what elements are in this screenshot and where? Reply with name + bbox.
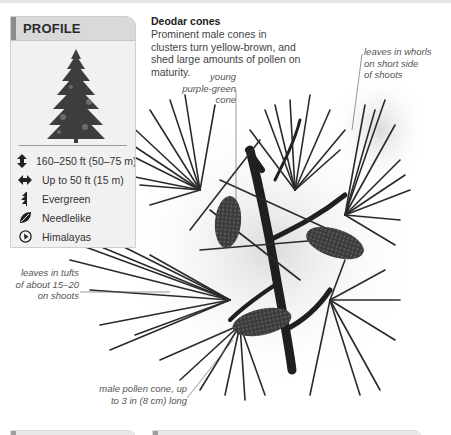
evergreen-icon bbox=[17, 192, 33, 206]
fact-evergreen: Evergreen bbox=[17, 189, 131, 208]
profile-box: PROFILE 160–250 ft (50–75 m) bbox=[10, 16, 136, 248]
tree-silhouette-icon bbox=[41, 47, 111, 145]
annotation-line: leaves in whorls bbox=[364, 46, 444, 58]
fact-height-text: 160–250 ft (50–75 m) bbox=[36, 155, 136, 167]
annotation-pollen-cone: male pollen cone, up to 3 in (8 cm) long bbox=[95, 383, 187, 406]
fact-location: Himalayas bbox=[17, 227, 131, 246]
location-icon bbox=[17, 230, 33, 244]
fact-leaf-text: Needlelike bbox=[42, 212, 91, 224]
annotation-line: on short side bbox=[364, 58, 444, 70]
annotation-line: male pollen cone, up bbox=[95, 383, 187, 395]
profile-divider bbox=[19, 145, 127, 146]
bottom-right-panel bbox=[152, 430, 422, 435]
profile-header: PROFILE bbox=[11, 17, 135, 41]
annotation-line: on shoots bbox=[0, 290, 79, 302]
panel-accent-bar bbox=[11, 431, 16, 435]
annotation-line: purple-green cone bbox=[170, 83, 236, 106]
spread-icon bbox=[17, 173, 33, 187]
annotation-leaf-tufts: leaves in tufts of about 15–20 on shoots bbox=[0, 267, 79, 302]
annotation-line: of shoots bbox=[364, 69, 444, 81]
caption-title: Deodar cones bbox=[151, 15, 301, 28]
annotation-line: of about 15–20 bbox=[0, 279, 79, 291]
annotation-line: to 3 in (8 cm) long bbox=[95, 395, 187, 407]
leaf-icon bbox=[17, 211, 33, 225]
profile-title: PROFILE bbox=[23, 21, 81, 36]
annotation-leaf-whorls: leaves in whorls on short side of shoots bbox=[364, 46, 444, 81]
fact-spread: Up to 50 ft (15 m) bbox=[17, 170, 131, 189]
caption: Deodar cones Prominent male cones in clu… bbox=[151, 15, 301, 78]
annotation-line: leaves in tufts bbox=[0, 267, 79, 279]
fact-spread-text: Up to 50 ft (15 m) bbox=[42, 174, 124, 186]
fact-location-text: Himalayas bbox=[42, 231, 91, 243]
fact-height: 160–250 ft (50–75 m) bbox=[17, 151, 131, 170]
bottom-left-panel bbox=[10, 430, 136, 435]
fact-leaf: Needlelike bbox=[17, 208, 131, 227]
profile-accent-bar bbox=[11, 17, 16, 40]
annotation-line: young bbox=[170, 71, 236, 83]
fact-evergreen-text: Evergreen bbox=[42, 193, 90, 205]
profile-facts: 160–250 ft (50–75 m) Up to 50 ft (15 m) … bbox=[17, 151, 131, 246]
height-icon bbox=[17, 154, 27, 168]
annotation-young-cone: young purple-green cone bbox=[170, 71, 236, 106]
panel-accent-bar bbox=[153, 431, 158, 435]
